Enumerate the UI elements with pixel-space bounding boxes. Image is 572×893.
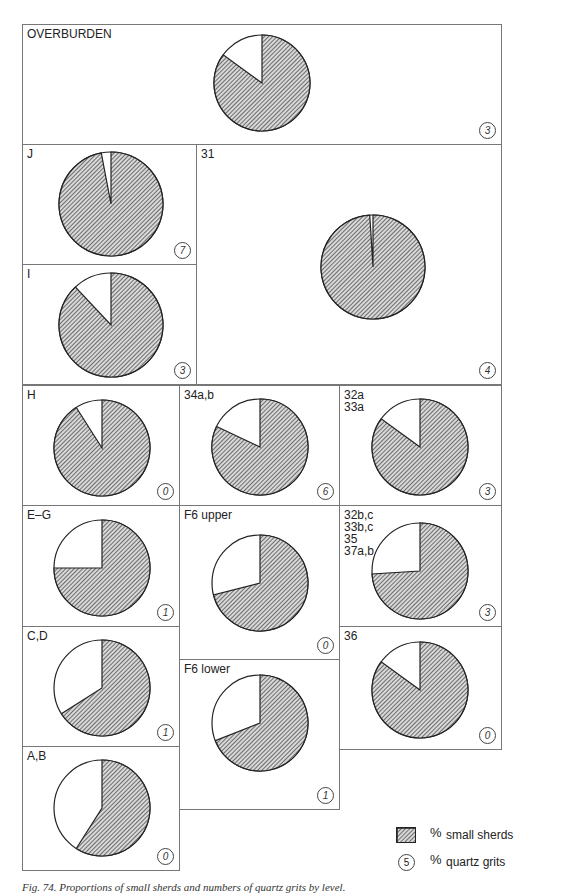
quartz-grits-count: 3 <box>174 362 191 379</box>
quartz-grits-count: 0 <box>157 848 174 865</box>
panel-32b-c-33b-c-35-37a-b: 32b,c 33b,c 35 37a,b3 <box>339 505 502 627</box>
quartz-grits-count: 6 <box>317 483 334 500</box>
quartz-grits-count: 4 <box>479 362 496 379</box>
quartz-grits-count: 3 <box>479 483 496 500</box>
quartz-grits-count: 1 <box>157 604 174 621</box>
pie-chart <box>210 533 310 633</box>
panel-label: C,D <box>27 630 48 642</box>
legend: % small sherds 5 % quartz grits <box>396 827 566 877</box>
panel-36: 360 <box>339 626 502 750</box>
quartz-grits-count: 3 <box>479 604 496 621</box>
panel-overburden: OVERBURDEN3 <box>22 24 502 145</box>
quartz-grits-count: 0 <box>479 727 496 744</box>
panel-label: J <box>27 148 33 160</box>
small-sherds-slice <box>54 400 150 496</box>
panel-label: I <box>27 268 30 280</box>
panel-f6-upper: F6 upper0 <box>179 505 340 660</box>
panel-i: I3 <box>22 264 197 385</box>
quartz-grits-count: 3 <box>479 122 496 139</box>
quartz-grits-count: 7 <box>174 242 191 259</box>
pie-chart <box>212 33 312 133</box>
circle-number-icon: 5 <box>398 854 415 871</box>
panel-label: H <box>27 389 36 401</box>
pie-chart <box>370 397 470 497</box>
legend-label-quartz-grits: quartz grits <box>446 854 505 870</box>
percent-sign: % <box>430 825 442 841</box>
panel-label: A,B <box>27 750 46 762</box>
quartz-grits-count: 1 <box>317 787 334 804</box>
percent-sign: % <box>430 852 442 868</box>
pie-chart <box>52 398 152 498</box>
panel-h: H0 <box>22 385 180 506</box>
pie-chart <box>210 397 310 497</box>
panel-c-d: C,D1 <box>22 626 180 747</box>
panel-label: OVERBURDEN <box>27 28 112 40</box>
panel-label: E–G <box>27 509 51 521</box>
pie-chart <box>210 673 310 773</box>
quartz-grits-count: 1 <box>157 724 174 741</box>
panel-a-b: A,B0 <box>22 746 180 871</box>
small-sherds-slice <box>59 273 163 377</box>
pie-chart <box>370 521 470 621</box>
figure-caption: Fig. 74. Proportions of small sherds and… <box>22 881 345 893</box>
quartz-grits-count: 0 <box>317 637 334 654</box>
quartz-grits-count: 0 <box>157 483 174 500</box>
panel-34a-b: 34a,b6 <box>179 385 340 506</box>
pie-chart <box>370 640 470 740</box>
pie-chart <box>57 271 165 379</box>
pie-chart <box>319 213 427 321</box>
hatched-swatch-icon <box>396 827 416 843</box>
pie-chart <box>57 150 165 258</box>
panel-label: 31 <box>201 148 214 160</box>
small-sherds-slice <box>321 215 425 319</box>
pie-chart <box>52 518 152 618</box>
legend-label-small-sherds: small sherds <box>446 827 513 843</box>
panel-label: 36 <box>344 630 357 642</box>
panel-f6-lower: F6 lower1 <box>179 659 340 810</box>
panel-e-g: E–G1 <box>22 505 180 627</box>
panel-j: J7 <box>22 144 197 265</box>
panel-31: 314 <box>196 144 502 385</box>
pie-chart <box>52 758 152 858</box>
panel-32a-33a: 32a 33a3 <box>339 385 502 506</box>
panel-label: 32a 33a <box>344 389 364 413</box>
pie-chart <box>52 638 152 738</box>
small-sherds-slice <box>59 152 163 256</box>
panel-label: F6 upper <box>184 509 232 521</box>
